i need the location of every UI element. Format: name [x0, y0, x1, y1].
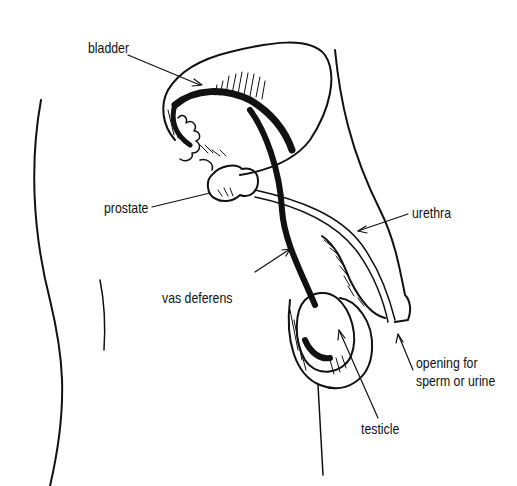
label-opening-line2: sperm or urine: [416, 372, 495, 389]
label-urethra: urethra: [412, 204, 451, 221]
male-reproductive-anatomy-drawing: [0, 0, 517, 486]
label-testicle: testicle: [361, 420, 399, 437]
anatomy-diagram: bladder prostate urethra vas deferens op…: [0, 0, 517, 486]
label-opening-line1: opening for: [416, 354, 478, 371]
label-bladder: bladder: [88, 39, 129, 56]
label-vas-deferens: vas deferens: [162, 289, 232, 306]
label-prostate: prostate: [104, 199, 148, 216]
